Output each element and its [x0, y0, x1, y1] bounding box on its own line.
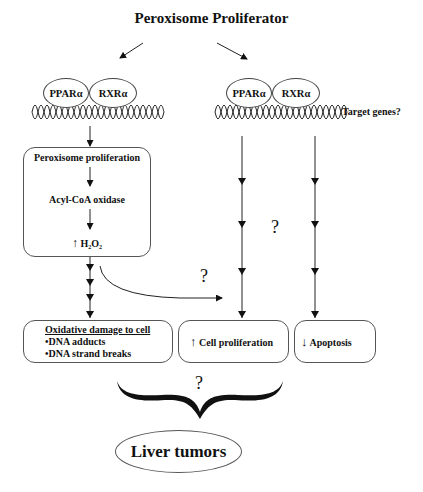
dna-helix-left: [32, 105, 164, 119]
rxr-alpha-label: RXRα: [99, 88, 128, 99]
ppar-alpha-left: PPARα: [43, 78, 89, 108]
oxidative-item-strand-breaks: •DNA strand breaks: [45, 348, 131, 359]
arrow-to-right-complex: [217, 43, 247, 59]
cell-proliferation-label: Cell proliferation: [199, 337, 273, 348]
h2o2-label: H₂O₂: [81, 238, 103, 249]
target-genes-label: Target genes?: [342, 106, 401, 117]
ppar-alpha-label: PPARα: [49, 88, 82, 99]
rxr-alpha-right: RXRα: [272, 78, 320, 108]
rxr-alpha-label: RXRα: [282, 88, 311, 99]
step-peroxisome-proliferation: Peroxisome proliferation: [23, 152, 151, 163]
question-mark-columns: ?: [271, 217, 279, 238]
liver-tumors-label: Liver tumors: [131, 442, 227, 462]
up-arrow-icon: ↑: [190, 334, 197, 349]
apoptosis-label: Apoptosis: [309, 337, 351, 348]
oxidative-item-dna-adducts: •DNA adducts: [45, 336, 105, 347]
down-arrow-icon: ↓: [301, 334, 308, 349]
question-mark-curve: ?: [200, 266, 208, 287]
liver-tumors-ellipse: Liver tumors: [115, 430, 242, 473]
arrow-column-apoptosis: [311, 136, 319, 318]
arrow-column-proliferation: [238, 136, 246, 318]
step-h2o2: ↑ H₂O₂: [72, 236, 102, 251]
arrow-chain-to-oxidative: [86, 256, 94, 318]
oxidative-damage-heading: Oxidative damage to cell: [45, 324, 150, 335]
rxr-alpha-left: RXRα: [89, 78, 137, 108]
ppar-alpha-label: PPARα: [232, 88, 265, 99]
apoptosis-text: ↓ Apoptosis: [301, 334, 352, 350]
arrow-to-left-complex: [120, 43, 143, 58]
dna-helix-right: [215, 105, 347, 119]
ppar-alpha-right: PPARα: [226, 78, 272, 108]
cell-proliferation-text: ↑ Cell proliferation: [190, 334, 273, 350]
question-mark-brace: ?: [195, 373, 203, 394]
up-arrow-icon: ↑: [72, 236, 78, 250]
step-acyl-coa-oxidase: Acyl-CoA oxidase: [23, 194, 151, 205]
